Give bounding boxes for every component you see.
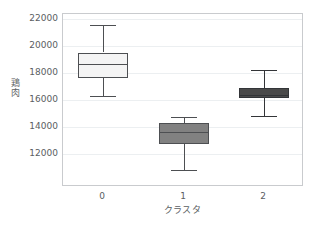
x-axis-title: クラスタ: [62, 203, 303, 216]
y-tick-label: 20000: [12, 41, 58, 50]
x-tick-label-1: 1: [163, 191, 203, 201]
y-tick-label: 12000: [12, 149, 58, 158]
box-plot-2: [63, 14, 302, 185]
whisker-upper-cap: [251, 70, 277, 71]
box-iqr: [239, 88, 289, 98]
whisker-lower-stem: [264, 98, 265, 116]
x-tick-label-2: 2: [243, 191, 283, 201]
whisker-upper-stem: [264, 70, 265, 88]
median-line: [239, 95, 289, 96]
plot-area: [62, 13, 303, 186]
y-axis-tick-labels: 220002000018000160001400012000: [6, 0, 58, 226]
boxplot-figure: 220002000018000160001400012000 鶏肉 012 クラ…: [0, 0, 321, 226]
y-axis-title: 鶏肉: [9, 78, 21, 98]
y-tick-label: 14000: [12, 122, 58, 131]
y-tick-label: 18000: [12, 68, 58, 77]
whisker-lower-cap: [251, 116, 277, 117]
x-tick-label-0: 0: [82, 191, 122, 201]
y-tick-label: 22000: [12, 14, 58, 23]
